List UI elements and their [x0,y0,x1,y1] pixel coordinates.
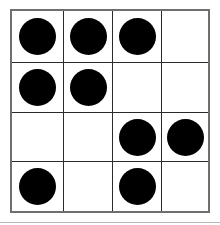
grid-cell-r4-c3[interactable] [113,162,162,211]
dot-icon [19,168,56,205]
grid-cell-r2-c3[interactable] [113,63,162,113]
dot-grid [10,9,210,213]
grid-cell-r3-c3[interactable] [113,113,162,162]
dot-icon [119,18,156,55]
grid-cell-r3-c4[interactable] [162,113,208,162]
page-bottom-edge [0,222,220,223]
dot-icon [70,18,107,55]
dot-grid-figure [0,0,220,225]
grid-cell-r1-c1[interactable] [12,11,64,63]
dot-icon [70,69,107,106]
grid-cell-r4-c1[interactable] [12,162,64,211]
dot-icon [119,168,156,205]
grid-cell-r4-c2[interactable] [64,162,113,211]
grid-cell-r1-c4[interactable] [162,11,208,63]
grid-cell-r2-c4[interactable] [162,63,208,113]
dot-icon [19,69,56,106]
dot-icon [19,18,56,55]
grid-cell-r2-c2[interactable] [64,63,113,113]
dot-icon [119,119,156,156]
grid-cell-r1-c2[interactable] [64,11,113,63]
grid-cell-r4-c4[interactable] [162,162,208,211]
grid-cell-r1-c3[interactable] [113,11,162,63]
grid-cell-r3-c1[interactable] [12,113,64,162]
grid-cell-r3-c2[interactable] [64,113,113,162]
grid-cell-r2-c1[interactable] [12,63,64,113]
dot-icon [167,119,204,156]
